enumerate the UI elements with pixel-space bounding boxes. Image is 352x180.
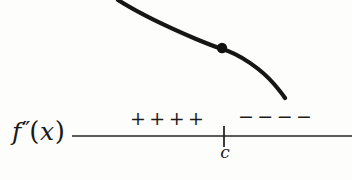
plus-sign-2: + — [149, 109, 165, 128]
minus-sign-2: − — [257, 107, 273, 126]
function-label: f″(x) — [12, 118, 65, 144]
minus-sign-3: − — [277, 107, 293, 126]
function-label-open-paren: ( — [29, 116, 40, 146]
plus-sign-1: + — [130, 109, 146, 128]
concavity-figure: f″(x) + + + + − − − − c — [0, 0, 352, 180]
function-label-variable: x — [40, 117, 55, 146]
plus-sign-3: + — [169, 109, 185, 128]
plus-sign-4: + — [188, 109, 204, 128]
inflection-point-dot — [217, 43, 227, 53]
tick-label-c: c — [216, 144, 234, 161]
function-curve — [118, 0, 285, 98]
function-label-close-paren: ) — [55, 116, 66, 146]
sign-interval-negative: − − − − — [238, 108, 312, 128]
minus-sign-1: − — [238, 107, 254, 126]
function-label-base: f — [12, 117, 22, 146]
sign-interval-positive: + + + + — [130, 108, 204, 128]
minus-sign-4: − — [296, 107, 312, 126]
curve-canvas — [0, 0, 352, 180]
